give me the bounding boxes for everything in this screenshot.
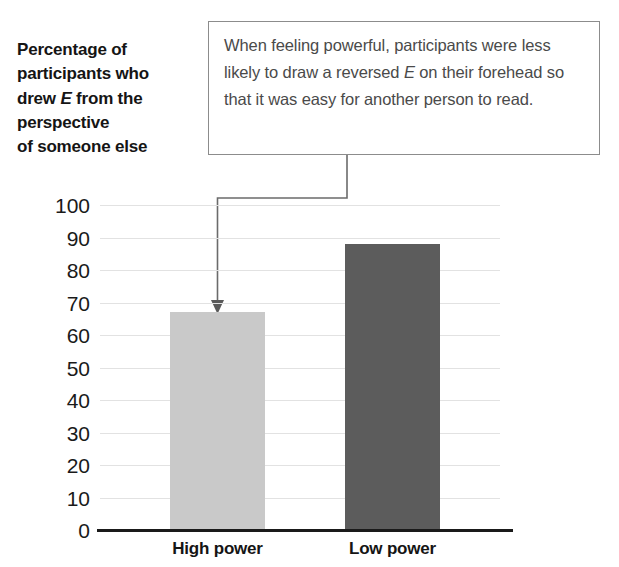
y-tick-label-100: 100 xyxy=(32,195,90,216)
bar-low-power[interactable] xyxy=(345,244,440,530)
y-axis-title-line-3-pre: drew xyxy=(17,89,60,108)
gridline xyxy=(100,465,500,466)
y-axis-title-line-3-post: from the xyxy=(72,89,143,108)
y-tick-label-70: 70 xyxy=(32,293,90,314)
y-axis-title-line-3: drew E from the xyxy=(17,87,212,111)
annotation-text: When feeling powerful, participants were… xyxy=(224,32,590,113)
y-tick-label-60: 60 xyxy=(32,325,90,346)
y-tick-label-20: 20 xyxy=(32,455,90,476)
annotation-callout-box: When feeling powerful, participants were… xyxy=(208,21,600,155)
y-axis-title-line-2: participants who xyxy=(17,62,212,86)
x-category-label-high-power: High power xyxy=(150,539,285,559)
y-axis-title: Percentage of participants who drew E fr… xyxy=(17,38,212,159)
gridline xyxy=(100,400,500,401)
y-tick-label-90: 90 xyxy=(32,228,90,249)
annotation-italic-e: E xyxy=(404,63,415,81)
plot-area xyxy=(100,205,500,530)
y-axis-title-line-5: of someone else xyxy=(17,135,212,159)
y-axis-title-line-1: Percentage of xyxy=(17,38,212,62)
y-axis-title-line-4: perspective xyxy=(17,111,212,135)
gridline xyxy=(100,368,500,369)
x-axis-line xyxy=(97,529,513,532)
y-tick-label-80: 80 xyxy=(32,260,90,281)
y-tick-label-50: 50 xyxy=(32,358,90,379)
gridline xyxy=(100,270,500,271)
gridline xyxy=(100,238,500,239)
y-axis-title-italic-e: E xyxy=(60,89,71,108)
gridline xyxy=(100,433,500,434)
y-tick-label-10: 10 xyxy=(32,488,90,509)
bar-high-power[interactable] xyxy=(170,312,265,530)
y-tick-label-30: 30 xyxy=(32,423,90,444)
gridline xyxy=(100,335,500,336)
x-category-label-low-power: Low power xyxy=(325,539,460,559)
y-tick-label-40: 40 xyxy=(32,390,90,411)
gridline xyxy=(100,303,500,304)
gridline xyxy=(100,498,500,499)
y-tick-label-0: 0 xyxy=(32,520,90,541)
gridline xyxy=(100,205,500,206)
